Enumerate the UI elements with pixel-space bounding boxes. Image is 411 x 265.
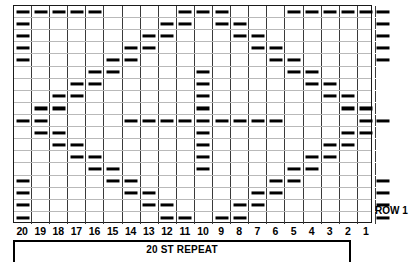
purl-dash-icon	[324, 155, 337, 158]
chart-cell	[14, 115, 32, 126]
chart-cell	[86, 176, 104, 187]
chart-cell	[358, 200, 376, 211]
chart-cell	[50, 42, 68, 53]
column-number-label: 6	[266, 225, 284, 238]
chart-cell	[159, 91, 177, 102]
purl-dash-icon	[197, 95, 210, 98]
purl-dash-icon	[107, 71, 120, 74]
chart-cell	[50, 54, 68, 65]
chart-cell	[231, 30, 249, 41]
column-number-label: 16	[85, 225, 103, 238]
chart-cell	[141, 79, 159, 90]
chart-cell	[86, 54, 104, 65]
chart-cell	[376, 176, 391, 187]
chart-cell	[104, 151, 122, 162]
chart-cell	[249, 18, 267, 29]
chart-cell	[177, 115, 195, 126]
chart-cell	[249, 91, 267, 102]
chart-cell	[104, 91, 122, 102]
chart-cell	[104, 54, 122, 65]
chart-cell	[267, 176, 285, 187]
purl-dash-icon	[269, 46, 282, 49]
chart-cell	[159, 163, 177, 174]
chart-cell	[104, 139, 122, 150]
purl-dash-icon	[125, 119, 138, 122]
chart-cell	[123, 42, 141, 53]
chart-cell	[32, 127, 50, 138]
purl-dash-icon	[197, 71, 210, 74]
chart-cell	[376, 18, 391, 29]
chart-cell	[195, 18, 213, 29]
purl-dash-icon	[324, 10, 337, 13]
chart-cell	[358, 54, 376, 65]
chart-cell	[285, 212, 303, 224]
chart-cell	[86, 6, 104, 17]
chart-cell	[285, 200, 303, 211]
purl-dash-icon	[88, 167, 101, 170]
chart-cell	[195, 151, 213, 162]
purl-dash-icon	[342, 95, 355, 98]
column-number-label-blank	[375, 225, 390, 238]
chart-cell	[376, 139, 391, 150]
chart-cell	[68, 176, 86, 187]
purl-dash-icon	[143, 34, 156, 37]
chart-cell	[195, 6, 213, 17]
chart-cell	[141, 139, 159, 150]
chart-cell	[14, 18, 32, 29]
chart-cell	[213, 18, 231, 29]
chart-cell	[177, 79, 195, 90]
chart-cell	[358, 212, 376, 224]
chart-cell	[249, 188, 267, 199]
chart-cell	[50, 176, 68, 187]
chart-cell	[322, 79, 340, 90]
knitting-chart-page: 2019181716151413121110987654321 20 ST RE…	[0, 0, 411, 265]
chart-cell	[358, 6, 376, 17]
purl-dash-icon	[360, 10, 373, 13]
chart-cell	[159, 18, 177, 29]
chart-row	[14, 103, 371, 115]
purl-dash-icon	[360, 131, 373, 134]
purl-dash-icon	[161, 34, 174, 37]
chart-cell	[267, 103, 285, 114]
chart-row	[14, 18, 371, 30]
chart-cell	[86, 42, 104, 53]
chart-cell	[358, 127, 376, 138]
chart-cell	[322, 115, 340, 126]
chart-cell	[376, 54, 391, 65]
chart-cell	[177, 151, 195, 162]
chart-cell	[213, 176, 231, 187]
purl-dash-icon	[107, 58, 120, 61]
chart-cell	[195, 176, 213, 187]
purl-dash-icon	[324, 95, 337, 98]
chart-cell	[159, 67, 177, 78]
chart-cell	[249, 176, 267, 187]
purl-dash-icon	[233, 34, 246, 37]
purl-dash-icon	[88, 155, 101, 158]
chart-cell	[231, 18, 249, 29]
purl-dash-icon	[306, 10, 319, 13]
chart-cell	[50, 115, 68, 126]
chart-cell	[32, 212, 50, 224]
chart-cell	[195, 67, 213, 78]
chart-row	[14, 67, 371, 79]
chart-cell	[141, 6, 159, 17]
chart-cell	[195, 200, 213, 211]
chart-cell	[376, 103, 391, 114]
chart-cell	[104, 188, 122, 199]
repeat-label: 20 ST REPEAT	[13, 244, 351, 255]
chart-cell	[177, 127, 195, 138]
chart-cell	[304, 115, 322, 126]
chart-cell	[322, 30, 340, 41]
chart-cell	[340, 163, 358, 174]
chart-cell	[358, 163, 376, 174]
chart-cell	[304, 127, 322, 138]
chart-cell	[304, 79, 322, 90]
chart-cell	[376, 67, 391, 78]
purl-dash-icon	[125, 180, 138, 183]
chart-cell	[376, 42, 391, 53]
chart-cell	[141, 54, 159, 65]
chart-cell	[322, 54, 340, 65]
chart-cell	[86, 91, 104, 102]
purl-dash-icon	[377, 34, 390, 37]
chart-cell	[159, 42, 177, 53]
